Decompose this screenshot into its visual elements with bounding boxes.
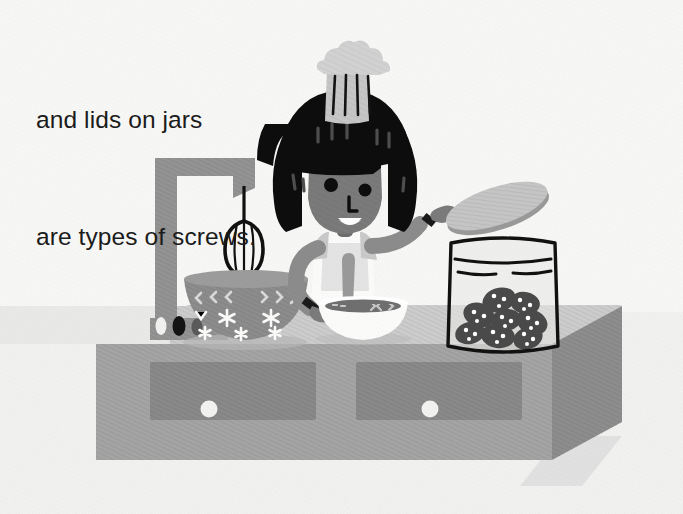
drawer-left-knob bbox=[201, 401, 218, 418]
caption-line-2: are types of screws. bbox=[36, 217, 256, 256]
drawer-right-knob bbox=[422, 401, 439, 418]
chef-eye-right bbox=[359, 184, 372, 197]
illustration-page: and lids on jars are types of screws. bbox=[0, 0, 683, 514]
chef-eye-left bbox=[324, 178, 338, 192]
caption-text: and lids on jars are types of screws. bbox=[36, 22, 256, 334]
caption-line-1: and lids on jars bbox=[36, 100, 256, 139]
